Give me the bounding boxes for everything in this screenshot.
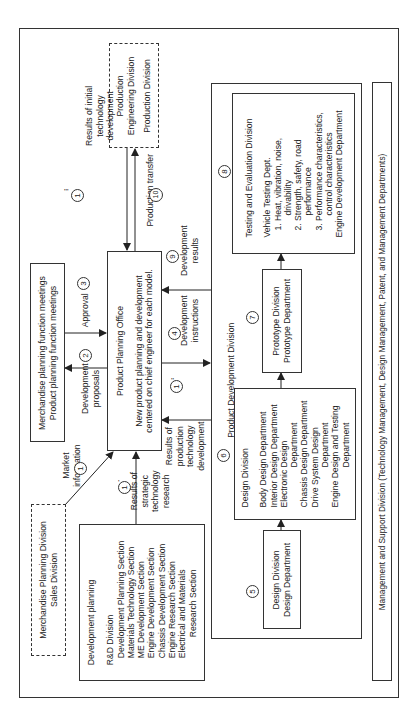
box-title: Design Division bbox=[240, 401, 250, 508]
label-line: technology bbox=[150, 461, 161, 521]
list-item: Department bbox=[340, 401, 350, 508]
box-title: Product Planning Office bbox=[115, 269, 126, 432]
label-line: strategic bbox=[139, 461, 150, 521]
list-item: performance bbox=[303, 110, 313, 237]
label-results-initial: Results of initial technology developmen… bbox=[84, 76, 116, 156]
label-line: technology bbox=[185, 411, 196, 481]
label-development-instructions: Development instructions bbox=[179, 291, 200, 351]
label-line: instructions bbox=[190, 291, 201, 351]
list-item: 2. Strength, safety, road bbox=[292, 110, 302, 237]
merchandise-planning-division-box: Merchandise Planning Division Sales Divi… bbox=[31, 504, 66, 656]
label-line: Market bbox=[61, 436, 72, 496]
prime-mark: ''' bbox=[64, 187, 69, 196]
list-item: Department bbox=[289, 401, 299, 508]
merchandise-meetings-box: Merchandise planning function meetings P… bbox=[30, 263, 65, 442]
product-planning-office-box: Product Planning Office New product plan… bbox=[107, 251, 162, 451]
label-line: Development bbox=[179, 291, 190, 351]
circle-7: 7 bbox=[246, 311, 259, 324]
prototype-box: Prototype Division Prototype Department bbox=[262, 269, 302, 373]
box-text: Production bbox=[115, 56, 126, 134]
label-line: development bbox=[196, 411, 207, 481]
section-item: Electrical and Materials bbox=[177, 540, 187, 665]
section-item: Research Section bbox=[188, 540, 198, 665]
management-support-box: Management and Support Division (Technol… bbox=[372, 82, 392, 681]
box-text: Product planning function meetings bbox=[48, 276, 59, 430]
box-text: centered on chief engineer for each mode… bbox=[144, 269, 155, 432]
circle-1: 1 bbox=[74, 462, 87, 475]
box-text: Engineering Division bbox=[126, 56, 137, 134]
list-item: 1. Heat, vibration, noise, bbox=[272, 110, 282, 237]
box-text: Sales Division bbox=[49, 521, 60, 639]
circle-9: 9 bbox=[166, 250, 179, 263]
box-title: Testing and Evaluation Division bbox=[243, 110, 253, 237]
label-line: Results of bbox=[129, 461, 140, 521]
design-division-box: Design Division Body Design Department I… bbox=[234, 388, 356, 520]
circle-5: 5 bbox=[246, 585, 259, 598]
list-item: Electronic Design bbox=[278, 401, 288, 508]
label-line: results bbox=[190, 221, 201, 281]
production-engineering-box: Production Engineering Division Producti… bbox=[109, 43, 159, 148]
label-line: production bbox=[174, 411, 185, 481]
box-title: R&D Division bbox=[105, 540, 115, 665]
circle-6: 6 bbox=[217, 449, 230, 462]
label-approval: Approval bbox=[80, 285, 91, 335]
section-item: Chassis Development Section bbox=[157, 540, 167, 665]
section-item: Engine Research Section bbox=[167, 540, 177, 665]
list-item: Chassis Design Department bbox=[299, 401, 309, 508]
circle-1-triple-prime: 1 bbox=[71, 189, 84, 202]
section-item: Engine Development Section bbox=[147, 540, 157, 665]
label-development-results: Development results bbox=[179, 221, 200, 281]
rd-division-box: Development planning R&D Division Develo… bbox=[79, 524, 205, 681]
prime-mark: '' bbox=[171, 376, 174, 385]
label-line: proposals bbox=[91, 359, 102, 419]
list-item: Body Design Department bbox=[258, 401, 268, 508]
box-text: Merchandise planning function meetings bbox=[37, 276, 48, 430]
list-item: drivability bbox=[282, 110, 292, 237]
label-line: development bbox=[105, 76, 116, 156]
box-text: Prototype Division bbox=[271, 279, 282, 363]
section-item: Materials Technology Section bbox=[126, 540, 136, 665]
box-text: Prototype Department bbox=[282, 279, 293, 363]
label-line: technology bbox=[95, 76, 106, 156]
section-item: Development Planning Section bbox=[116, 540, 126, 665]
testing-evaluation-box: Testing and Evaluation Division Vehicle … bbox=[232, 93, 355, 254]
box-text: Merchandise Planning Division bbox=[38, 521, 49, 639]
box-text: Management and Support Division (Technol… bbox=[377, 153, 388, 610]
list-item: 3. Performance characteristics, bbox=[313, 110, 323, 237]
label-line: Development bbox=[179, 221, 190, 281]
box-text: New product planning and development bbox=[133, 269, 144, 432]
box-footer: Engine Development Department bbox=[334, 110, 344, 237]
label-line: Approval bbox=[80, 285, 91, 335]
prime-mark: ' bbox=[118, 478, 120, 487]
box-dept: Vehicle Testing Dept. bbox=[261, 110, 271, 237]
label-line: Results of bbox=[164, 411, 175, 481]
box-text: Design Department bbox=[282, 542, 293, 616]
label-production-technology: Results of production technology develop… bbox=[164, 411, 206, 481]
section-item: ME Development Section bbox=[136, 540, 146, 665]
list-item: Drive System Design bbox=[309, 401, 319, 508]
box-text: Production Division bbox=[142, 56, 153, 134]
list-item: Engine Design and Testing bbox=[330, 401, 340, 508]
list-item: control characteristics bbox=[323, 110, 333, 237]
list-item: Department bbox=[320, 401, 330, 508]
design-department-box: Design Division Design Department bbox=[263, 530, 301, 629]
list-item: Interior Design Department bbox=[268, 401, 278, 508]
label-line: Results of initial bbox=[84, 76, 95, 156]
circle-8: 8 bbox=[218, 165, 231, 178]
box-text: Design Division bbox=[271, 542, 282, 616]
box-heading: Development planning bbox=[86, 540, 96, 665]
label-development-proposals: Development proposals bbox=[80, 359, 101, 419]
circle-3: 3 bbox=[77, 277, 90, 290]
label-line: Development bbox=[80, 359, 91, 419]
circle-10: 10 bbox=[149, 188, 163, 202]
